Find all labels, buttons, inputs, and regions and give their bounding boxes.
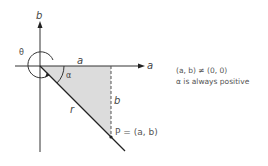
x-axis-label: a: [147, 60, 153, 71]
alpha-label: α: [66, 71, 71, 80]
top-side-label: a: [77, 55, 83, 66]
note-alpha-positive: α is always positive: [176, 76, 249, 87]
point-label: P = (a, b): [115, 127, 158, 137]
vertical-side-label: b: [114, 95, 120, 106]
hypotenuse-label: r: [70, 104, 74, 115]
y-axis-label: b: [36, 10, 42, 21]
y-axis-arrow-icon: [38, 21, 43, 28]
note-nonzero: (a, b) ≠ (0, 0): [176, 65, 227, 76]
theta-label: θ: [19, 48, 24, 57]
point-p: [109, 135, 112, 138]
x-axis-arrow-icon: [138, 64, 145, 69]
